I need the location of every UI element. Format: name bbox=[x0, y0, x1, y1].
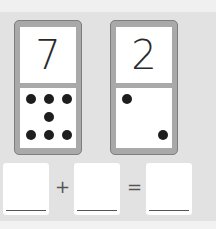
dot bbox=[26, 130, 36, 140]
domino-number: 7 bbox=[20, 27, 76, 83]
top-strip bbox=[0, 0, 216, 12]
answer-box-3[interactable] bbox=[146, 163, 192, 215]
domino-number: 2 bbox=[116, 27, 172, 83]
dot bbox=[158, 130, 168, 140]
bottom-strip bbox=[0, 221, 216, 229]
dot bbox=[26, 94, 36, 104]
plus-sign: + bbox=[55, 176, 70, 197]
dot bbox=[62, 130, 72, 140]
domino-dots bbox=[116, 88, 172, 148]
answer-box-2[interactable] bbox=[74, 163, 120, 215]
equals-sign: = bbox=[127, 176, 142, 197]
answer-line bbox=[6, 210, 46, 211]
answer-line bbox=[77, 210, 117, 211]
dot bbox=[122, 94, 132, 104]
answer-line bbox=[149, 210, 189, 211]
domino-dots bbox=[20, 88, 76, 148]
dot bbox=[44, 130, 54, 140]
dot bbox=[62, 94, 72, 104]
dot bbox=[44, 94, 54, 104]
domino-two: 2 bbox=[110, 20, 178, 155]
answer-box-1[interactable] bbox=[3, 163, 49, 215]
dot bbox=[44, 112, 54, 122]
domino-seven: 7 bbox=[14, 20, 82, 155]
